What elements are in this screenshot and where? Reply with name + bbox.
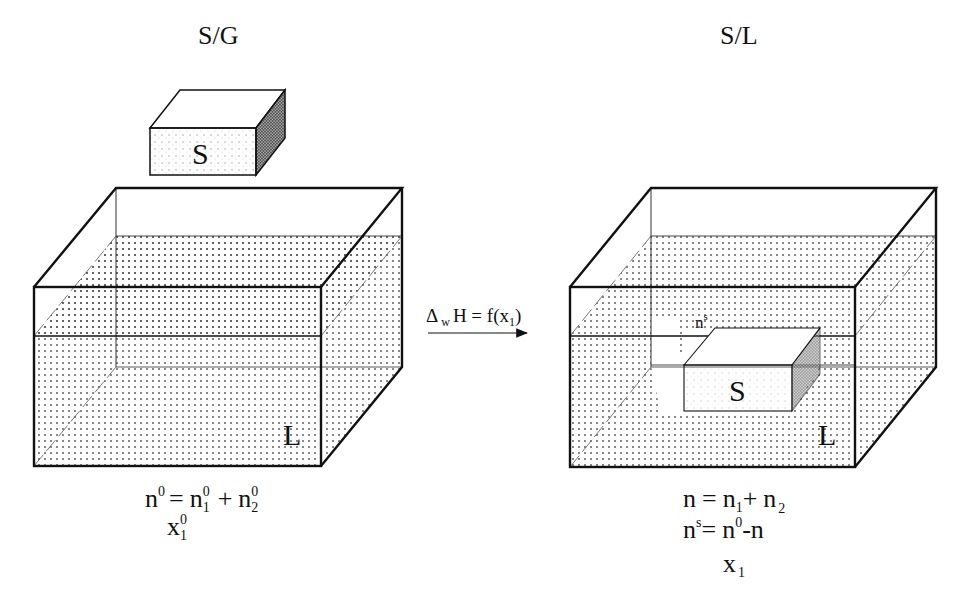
solid-block-gas: S <box>150 90 285 175</box>
left-panel-title: S/G <box>198 21 238 50</box>
diagram-canvas: S/G S L <box>0 0 971 612</box>
liquid-label: L <box>283 418 301 451</box>
right-panel: S/L <box>570 21 936 580</box>
liquid-container-right: S ns L <box>570 188 936 467</box>
right-equations: n=n1+n2 ns=n0-n x1 <box>683 484 785 580</box>
solid-label: S <box>192 137 209 170</box>
solid-label: S <box>729 374 746 407</box>
right-panel-title: S/L <box>720 21 758 50</box>
liquid-label: L <box>818 418 836 451</box>
equation-total-moles-initial: n0=n01+n02 <box>145 484 258 515</box>
equation-mole-fraction-final: x1 <box>723 549 745 580</box>
equation-total-moles-final: n=n1+n2 <box>683 484 785 516</box>
equation-surface-excess: ns=n0-n <box>683 515 764 544</box>
solid-block-immersed: S <box>684 328 820 411</box>
left-equations: n0=n01+n02 x01 <box>145 484 258 543</box>
left-panel: S/G S L <box>34 21 402 543</box>
transition: ΔwH = f(x1) <box>426 305 527 333</box>
liquid-container-left: L <box>34 188 402 466</box>
wetting-enthalpy-label: ΔwH = f(x1) <box>426 305 521 329</box>
equation-mole-fraction-initial: x01 <box>167 512 187 543</box>
